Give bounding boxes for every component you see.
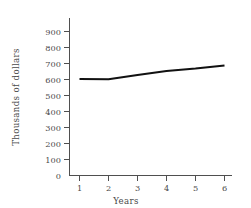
x-axis-ticks — [80, 176, 225, 181]
x-tick-label: 5 — [193, 183, 198, 193]
y-tick-label: 900 — [45, 27, 61, 37]
chart-canvas: 900 800 700 600 500 400 300 200 100 0 1 … — [0, 0, 251, 208]
y-axis-title: Thousands of dollars — [11, 48, 21, 146]
y-tick-label: 200 — [45, 139, 61, 149]
x-tick-label: 2 — [106, 183, 111, 193]
y-tick-label: 800 — [45, 43, 61, 53]
x-axis-title: Years — [112, 196, 138, 206]
y-axis-ticks — [64, 32, 69, 160]
line-chart: 900 800 700 600 500 400 300 200 100 0 1 … — [0, 0, 251, 208]
x-tick-label: 1 — [77, 183, 82, 193]
y-tick-label: 100 — [45, 155, 61, 165]
x-tick-label: 6 — [222, 183, 227, 193]
y-axis-tick-labels: 900 800 700 600 500 400 300 200 100 0 — [45, 27, 61, 181]
x-tick-label: 3 — [135, 183, 140, 193]
data-series-line — [80, 65, 225, 79]
y-tick-label: 300 — [45, 123, 61, 133]
x-tick-label: 4 — [164, 183, 169, 193]
y-tick-label: 600 — [45, 75, 61, 85]
y-tick-label: 500 — [45, 91, 61, 101]
y-tick-label: 400 — [45, 107, 61, 117]
y-tick-label: 700 — [45, 59, 61, 69]
y-tick-label: 0 — [56, 171, 61, 181]
x-axis-tick-labels: 1 2 3 4 5 6 — [77, 183, 227, 193]
